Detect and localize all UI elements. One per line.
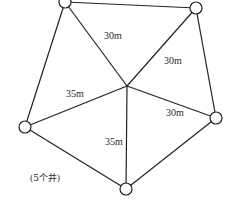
perimeter-edge-top-left-top-right — [65, 2, 196, 8]
distance-label-right: 30m — [166, 108, 184, 118]
distance-label-top-left: 30m — [104, 31, 122, 41]
well-node-top-left — [59, 0, 71, 8]
distance-label-bottom: 35m — [105, 137, 123, 147]
distance-label-left: 35m — [66, 89, 84, 99]
perimeter-edge-right-bottom — [126, 118, 216, 189]
well-node-right — [210, 112, 222, 124]
well-node-bottom — [120, 183, 132, 195]
well-node-top-right — [190, 2, 202, 14]
perimeter-edge-top-right-right — [196, 8, 216, 118]
distance-label-top-right: 30m — [164, 56, 182, 66]
perimeter-edge-left-top-left — [25, 2, 65, 127]
well-node-left — [19, 121, 31, 133]
radial-edge-bottom — [126, 86, 127, 189]
radial-edge-top-left — [65, 2, 127, 86]
radial-edge-top-right — [127, 8, 196, 86]
well-count-caption: (5个井) — [30, 174, 61, 183]
